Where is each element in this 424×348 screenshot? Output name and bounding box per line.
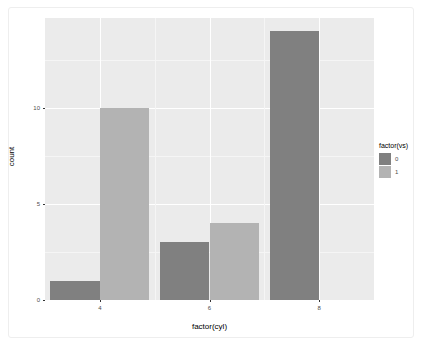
plot-panel — [45, 18, 374, 300]
ggplot-figure: 0510 count 468 factor(cyl) factor(vs) 01 — [0, 0, 424, 348]
x-axis-title: factor(cyl) — [45, 322, 374, 331]
x-tick-label: 6 — [200, 305, 220, 312]
legend-key-swatch — [379, 153, 391, 165]
y-tick-mark — [43, 204, 45, 205]
bar — [270, 31, 319, 300]
legend-item[interactable]: 0 — [379, 152, 423, 165]
legend-item-label: 1 — [395, 169, 398, 175]
x-tick-mark — [319, 300, 320, 302]
x-tick-label: 4 — [90, 305, 110, 312]
bar — [50, 281, 99, 300]
y-tick-label: 5 — [28, 201, 40, 208]
y-axis-title: count — [7, 127, 16, 187]
legend-item-list: 01 — [379, 152, 423, 178]
screenshot-root: 0510 count 468 factor(cyl) factor(vs) 01 — [0, 0, 424, 348]
y-tick-mark — [43, 300, 45, 301]
legend: factor(vs) 01 — [379, 142, 423, 178]
y-tick-label: 0 — [28, 297, 40, 304]
gridline-minor-x — [155, 18, 156, 300]
y-tick-label: 10 — [28, 105, 40, 112]
bar — [160, 242, 209, 300]
legend-item[interactable]: 1 — [379, 165, 423, 178]
bar — [100, 108, 149, 300]
legend-item-label: 0 — [395, 156, 398, 162]
bar — [210, 223, 259, 300]
legend-title: factor(vs) — [379, 142, 423, 149]
y-tick-mark — [43, 108, 45, 109]
x-tick-label: 8 — [309, 305, 329, 312]
gridline-minor-x — [264, 18, 265, 300]
legend-key-swatch — [379, 166, 391, 178]
x-tick-mark — [100, 300, 101, 302]
x-tick-mark — [210, 300, 211, 302]
